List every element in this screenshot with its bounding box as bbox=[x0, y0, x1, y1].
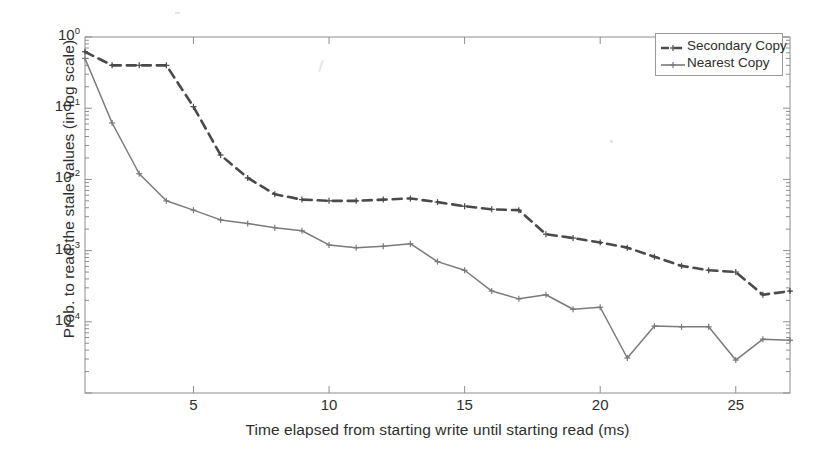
data-point-marker bbox=[299, 228, 305, 234]
data-point-marker bbox=[435, 199, 441, 205]
data-point-marker bbox=[272, 225, 278, 231]
legend-line-sample-icon bbox=[660, 40, 686, 52]
data-point-marker bbox=[407, 195, 413, 201]
data-point-marker bbox=[380, 197, 386, 203]
data-point-marker bbox=[570, 306, 576, 312]
data-point-marker bbox=[624, 245, 630, 251]
data-point-marker bbox=[136, 62, 142, 68]
data-point-marker bbox=[272, 191, 278, 197]
chart-legend: Secondary CopyNearest Copy bbox=[655, 33, 783, 76]
x-tick-label: 10 bbox=[309, 396, 349, 413]
data-point-marker bbox=[597, 304, 603, 310]
data-point-marker bbox=[516, 296, 522, 302]
data-point-marker bbox=[651, 254, 657, 260]
data-point-marker bbox=[218, 217, 224, 223]
data-point-marker bbox=[570, 235, 576, 241]
data-point-marker bbox=[353, 245, 359, 251]
x-tick-label: 5 bbox=[173, 396, 213, 413]
data-point-marker bbox=[679, 324, 685, 330]
x-axis-title: Time elapsed from starting write until s… bbox=[85, 421, 790, 439]
x-tick-label: 15 bbox=[445, 396, 485, 413]
axis-frame bbox=[85, 37, 790, 393]
data-point-marker bbox=[597, 239, 603, 245]
data-point-marker bbox=[82, 55, 88, 61]
data-point-marker bbox=[489, 206, 495, 212]
series-line-1 bbox=[85, 52, 790, 295]
chart-figure: 10010-110-210-310-4 Prob. to read the st… bbox=[0, 0, 820, 464]
data-point-marker bbox=[787, 288, 793, 294]
x-tick-label: 20 bbox=[580, 396, 620, 413]
data-point-marker bbox=[163, 62, 169, 68]
data-point-marker bbox=[787, 337, 793, 343]
series-layer bbox=[82, 49, 793, 363]
data-point-marker bbox=[326, 198, 332, 204]
data-point-marker bbox=[380, 243, 386, 249]
legend-line-sample-icon bbox=[660, 57, 686, 69]
data-point-marker bbox=[326, 242, 332, 248]
data-point-marker bbox=[353, 198, 359, 204]
data-point-marker bbox=[109, 120, 115, 126]
data-point-marker bbox=[462, 203, 468, 209]
legend-label: Secondary Copy bbox=[687, 38, 787, 53]
legend-label: Nearest Copy bbox=[687, 55, 770, 70]
data-point-marker bbox=[706, 267, 712, 273]
data-point-marker bbox=[299, 197, 305, 203]
data-point-marker bbox=[190, 207, 196, 213]
data-point-marker bbox=[679, 263, 685, 269]
legend-item-1: Secondary Copy bbox=[660, 37, 778, 54]
x-tick-label: 25 bbox=[716, 396, 756, 413]
legend-item-2: Nearest Copy bbox=[660, 54, 778, 71]
data-point-marker bbox=[109, 62, 115, 68]
data-point-marker bbox=[245, 221, 251, 227]
scan-speckle bbox=[610, 140, 613, 143]
data-point-marker bbox=[543, 292, 549, 298]
scan-speckle bbox=[175, 12, 180, 14]
